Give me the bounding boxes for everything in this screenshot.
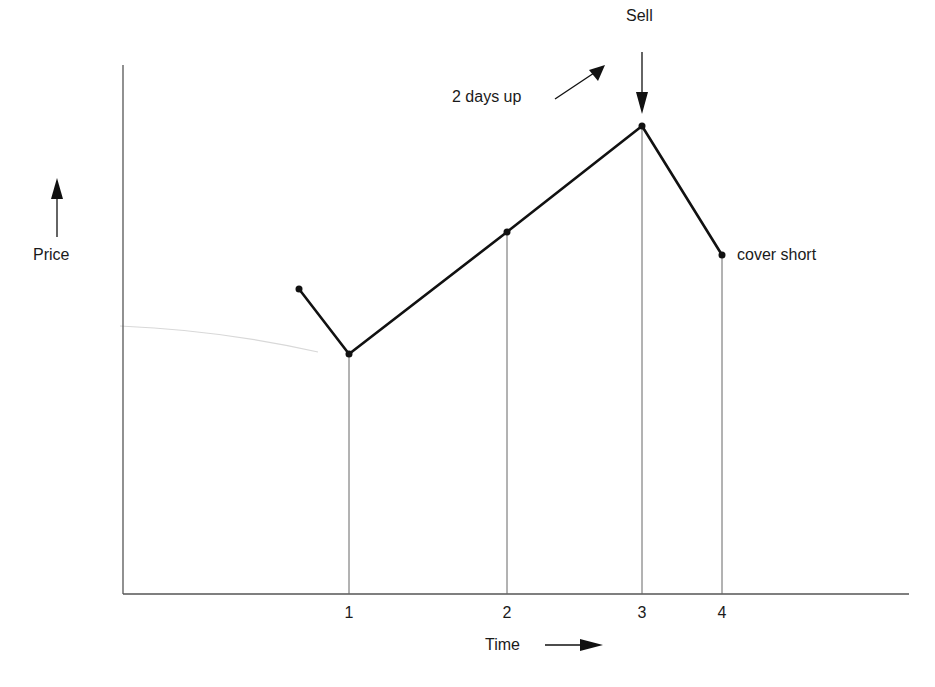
price-arrow-icon <box>51 178 63 237</box>
data-point-1 <box>346 351 353 358</box>
data-point-0 <box>296 286 303 293</box>
up-arrow-icon <box>555 65 605 99</box>
time-arrow-icon <box>545 639 603 651</box>
data-point-3 <box>639 123 646 130</box>
sell-arrow-icon <box>636 52 648 114</box>
two-days-up-label: 2 days up <box>452 89 521 105</box>
cover-short-label: cover short <box>737 247 816 263</box>
x-tick-4: 4 <box>718 605 727 621</box>
price-axis-label: Price <box>33 247 69 263</box>
x-tick-1: 1 <box>345 605 354 621</box>
sell-label: Sell <box>626 8 653 24</box>
price-line <box>299 126 722 354</box>
scan-artifact <box>120 326 318 352</box>
data-point-4 <box>719 252 726 259</box>
x-tick-2: 2 <box>503 605 512 621</box>
data-point-2 <box>504 229 511 236</box>
x-tick-3: 3 <box>638 605 647 621</box>
time-axis-label: Time <box>485 637 520 653</box>
